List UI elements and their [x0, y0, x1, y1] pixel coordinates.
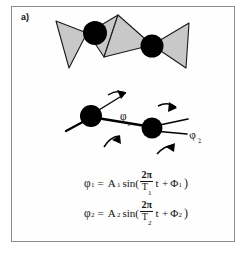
eq2-amplitude-sub: 2	[117, 209, 121, 221]
phi-1-angle-label: φ1	[120, 106, 130, 126]
eq1-numerator: 2π	[140, 170, 152, 181]
eq1-equals: =	[94, 177, 107, 189]
eq1-close-paren: )	[182, 177, 188, 189]
eq1-fraction: 2π T1	[140, 170, 152, 196]
eq2-lhs-sub: 2	[91, 209, 95, 221]
eq1-lhs-symbol: φ	[84, 177, 91, 189]
eq1-sin-open: sin(	[120, 177, 139, 189]
eq2-lhs-symbol: φ	[84, 207, 91, 219]
figure-container: a)	[0, 0, 245, 254]
eq1-operator: +	[160, 177, 170, 189]
eq1-amplitude: A	[108, 177, 117, 189]
eq2-sin-open: sin(	[120, 207, 139, 219]
panel-label-a: a)	[21, 12, 29, 23]
eq2-fraction: 2π T2	[140, 200, 152, 226]
equation-phi-1: φ1 = A1 sin( 2π T1 t + Φ1 )	[84, 170, 188, 196]
eq2-equals: =	[94, 207, 107, 219]
eq1-lhs-sub: 1	[91, 179, 95, 191]
eq2-phase: Φ	[170, 207, 178, 219]
eq2-close-paren: )	[182, 207, 188, 219]
eq2-operator: +	[160, 207, 170, 219]
eq1-phase: Φ	[170, 177, 178, 189]
eq1-amplitude-sub: 1	[117, 179, 121, 191]
equation-phi-2: φ2 = A2 sin( 2π T2 t + Φ2 )	[84, 200, 188, 226]
eq2-phase-sub: 2	[178, 209, 182, 221]
eq2-numerator: 2π	[140, 200, 152, 211]
eq2-amplitude: A	[108, 207, 117, 219]
eq2-denominator: T2	[141, 212, 153, 227]
eq1-denominator: T1	[141, 182, 153, 197]
eq1-phase-sub: 1	[178, 179, 182, 191]
